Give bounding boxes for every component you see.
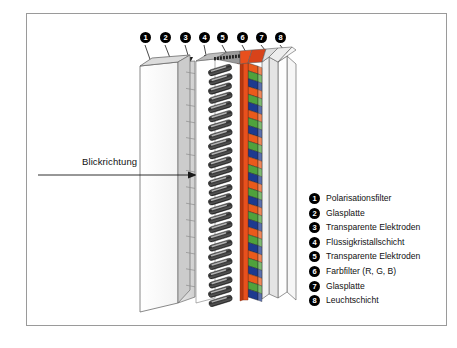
legend-item-5: 5Transparente Elektroden: [309, 250, 449, 265]
legend-label-7: Glasplatte: [326, 280, 365, 292]
callout-number-4: 4: [199, 32, 210, 43]
callout-number-1: 1: [140, 32, 151, 43]
callout-number-3: 3: [180, 32, 191, 43]
legend-bullet-4: 4: [309, 237, 320, 248]
legend-bullet-3: 3: [309, 222, 320, 233]
callout-number-8: 8: [275, 32, 286, 43]
legend-list: 1Polarisationsfilter2Glasplatte3Transpar…: [309, 192, 449, 309]
legend-label-8: Leuchtschicht: [326, 294, 379, 306]
legend-bullet-8: 8: [309, 295, 320, 306]
lcd-layer-diagram: 12345678 Blickrichtung 1Polarisationsfil…: [0, 0, 457, 348]
callout-number-6: 6: [237, 32, 248, 43]
legend-label-5: Transparente Elektroden: [326, 250, 420, 262]
legend-label-1: Polarisationsfilter: [326, 192, 391, 204]
legend-item-6: 6Farbfilter (R, G, B): [309, 265, 449, 280]
legend-bullet-1: 1: [309, 193, 320, 204]
legend-item-2: 2Glasplatte: [309, 207, 449, 222]
callout-number-5: 5: [217, 32, 228, 43]
legend-label-2: Glasplatte: [326, 207, 365, 219]
callout-number-2: 2: [160, 32, 171, 43]
legend-bullet-5: 5: [309, 251, 320, 262]
legend-item-3: 3Transparente Elektroden: [309, 221, 449, 236]
legend-label-6: Farbfilter (R, G, B): [326, 265, 396, 277]
legend-item-8: 8Leuchtschicht: [309, 294, 449, 309]
legend-label-3: Transparente Elektroden: [326, 221, 420, 233]
legend-bullet-2: 2: [309, 208, 320, 219]
legend-item-7: 7Glasplatte: [309, 280, 449, 295]
view-direction-label: Blickrichtung: [82, 156, 137, 167]
legend-item-4: 4Flüssigkristallschicht: [309, 236, 449, 251]
callout-number-7: 7: [256, 32, 267, 43]
legend-item-1: 1Polarisationsfilter: [309, 192, 449, 207]
legend-bullet-7: 7: [309, 281, 320, 292]
legend-label-4: Flüssigkristallschicht: [326, 236, 404, 248]
legend-bullet-6: 6: [309, 266, 320, 277]
